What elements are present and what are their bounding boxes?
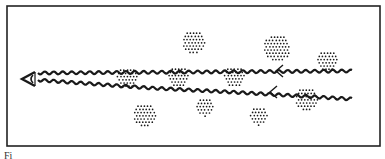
eye-arrowhead-icon [22,72,35,86]
diagram-figure [0,0,385,159]
particle-cluster [196,99,213,117]
diagram-frame [7,6,380,146]
upper-ray [38,70,352,75]
figure-caption: Fi [4,151,12,159]
particle-cluster [264,36,290,60]
particle-cluster [250,108,268,126]
particle-clusters [117,32,338,126]
particle-cluster [183,32,206,53]
particle-cluster [317,52,338,70]
particle-cluster [296,89,319,110]
lower-ray [38,79,352,100]
particle-cluster [134,105,157,126]
light-rays [38,70,352,100]
direction-chevrons [270,65,283,98]
